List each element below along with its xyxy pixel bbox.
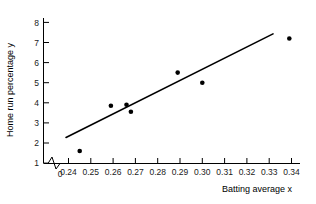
y-tick-label: 7: [34, 38, 39, 48]
x-axis-title: Batting average x: [222, 184, 293, 194]
regression-line: [66, 34, 273, 138]
x-tick-label: 0.30: [194, 167, 211, 177]
chart-svg: 8 7 6 5 4 3 2 1 0 0.24 0.25: [0, 0, 316, 204]
y-tick-label: 3: [34, 118, 39, 128]
x-tick-label: 0.34: [283, 167, 300, 177]
x-axis-tick-labels: 0.24 0.25 0.26 0.27 0.28 0.29 0.30 0.31 …: [60, 167, 300, 177]
data-point: [175, 70, 180, 75]
x-tick-label: 0.29: [172, 167, 189, 177]
x-tick-label: 0.24: [60, 167, 77, 177]
y-tick-label: 4: [34, 98, 39, 108]
y-axis-title: Home run percentage y: [5, 42, 15, 137]
y-tick-label: 1: [34, 158, 39, 168]
x-tick-label: 0.31: [216, 167, 233, 177]
y-tick-label: 6: [34, 58, 39, 68]
x-tick-label: 0.27: [127, 167, 144, 177]
x-tick-label: 0.25: [83, 167, 100, 177]
data-points: [77, 36, 291, 153]
data-point: [77, 149, 82, 154]
scatter-chart: 8 7 6 5 4 3 2 1 0 0.24 0.25: [0, 0, 316, 204]
x-tick-label: 0.28: [149, 167, 166, 177]
data-point: [109, 104, 114, 109]
x-tick-label: 0.32: [239, 167, 256, 177]
x-tick-label: 0.33: [261, 167, 278, 177]
y-tick-label: 8: [34, 18, 39, 28]
data-point: [287, 36, 292, 41]
y-axis-ticks: [44, 22, 50, 163]
y-tick-label: 5: [34, 78, 39, 88]
x-tick-label: 0.26: [105, 167, 122, 177]
data-point: [200, 80, 205, 85]
y-tick-label: 2: [34, 138, 39, 148]
data-point: [124, 103, 129, 108]
x-axis-ticks: [69, 158, 292, 164]
y-axis-tick-labels: 8 7 6 5 4 3 2 1: [34, 18, 39, 169]
data-point: [129, 110, 134, 115]
